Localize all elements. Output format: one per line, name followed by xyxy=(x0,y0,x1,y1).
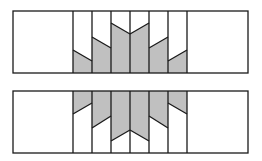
strip-diagram xyxy=(0,0,262,161)
bottom-strip-panel xyxy=(13,91,248,153)
top-strip-panel xyxy=(13,11,248,73)
